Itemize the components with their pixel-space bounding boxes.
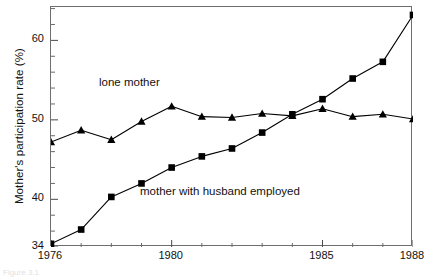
data-point-marker <box>168 102 176 109</box>
y-tick-label: 50 <box>4 113 44 123</box>
x-tick-label: 1985 <box>292 249 352 261</box>
x-tick-marks <box>51 240 413 247</box>
data-point-marker <box>410 12 413 19</box>
y-tick-marks <box>51 9 58 247</box>
data-point-marker <box>318 105 326 112</box>
data-point-marker <box>77 126 85 133</box>
series-2 <box>51 12 413 247</box>
data-point-marker <box>289 111 296 118</box>
data-point-marker <box>229 145 236 152</box>
data-point-marker <box>380 59 387 66</box>
series-1 <box>51 102 413 145</box>
plot-area <box>50 6 412 246</box>
annotation-lone-mother: lone mother <box>99 76 160 88</box>
data-point-marker <box>349 75 356 82</box>
data-point-marker <box>319 96 326 103</box>
data-series-group <box>51 12 413 247</box>
data-point-marker <box>259 129 266 136</box>
figure-caption: Figure 3.1 <box>3 268 39 277</box>
x-tick-label: 1976 <box>20 249 80 261</box>
y-axis-title: Mother's participation rate (%) <box>13 11 25 241</box>
y-tick-label: 60 <box>4 33 44 43</box>
x-tick-label: 1988 <box>382 249 428 261</box>
x-tick-label: 1980 <box>141 249 201 261</box>
data-point-marker <box>78 226 85 233</box>
data-point-marker <box>51 241 54 247</box>
data-point-marker <box>108 194 115 201</box>
annotation-mother-with-husband-employed: mother with husband employed <box>140 185 300 197</box>
data-point-marker <box>258 109 266 116</box>
data-point-marker <box>137 117 145 124</box>
figure-container: Mother's participation rate (%) 34405060… <box>0 0 428 277</box>
data-point-marker <box>199 153 206 160</box>
data-point-marker <box>379 110 387 117</box>
chart-svg <box>51 7 413 247</box>
data-point-marker <box>168 164 175 171</box>
y-tick-label: 40 <box>4 192 44 202</box>
